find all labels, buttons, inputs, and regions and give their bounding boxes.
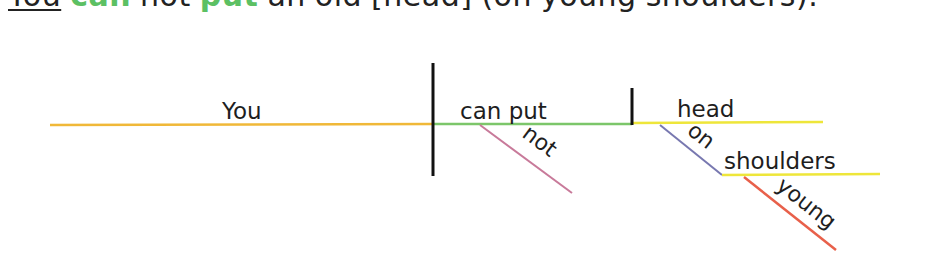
object-label: head: [677, 96, 734, 122]
young-label: young: [772, 172, 841, 234]
not-label: not: [518, 120, 562, 162]
prep-object-label: shoulders: [724, 148, 836, 174]
subject-baseline: [50, 124, 433, 125]
object-baseline: [632, 122, 823, 123]
subject-label: You: [221, 98, 262, 124]
sentence-diagram: You can put head shoulders not on young: [0, 0, 926, 272]
shoulders-baseline: [722, 174, 880, 175]
